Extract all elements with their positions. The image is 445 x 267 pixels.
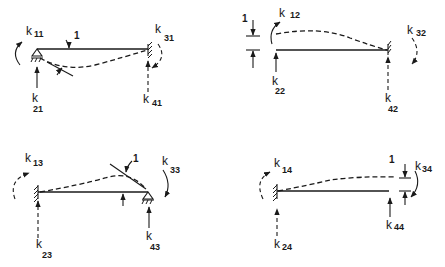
- moment-arrow-k33: [163, 170, 168, 197]
- label-k13-sub: 13: [33, 158, 43, 168]
- unit-label: 1: [242, 13, 248, 24]
- label-k31-sub: 31: [164, 33, 174, 43]
- unit-pointer-arrow: [66, 40, 69, 48]
- unit-displacement-dimension: [399, 164, 411, 205]
- deflected-shape: [40, 50, 147, 67]
- label-k43-sub: 43: [150, 242, 160, 252]
- unit-label: 1: [133, 153, 139, 164]
- label-k14-sub: 14: [282, 165, 292, 175]
- label-k34-base: k: [386, 218, 393, 232]
- label-k24-sub: 24: [282, 242, 292, 252]
- tangent-line: [110, 164, 146, 189]
- label-k41-sub: 41: [152, 98, 162, 108]
- label-k33-sub: 33: [170, 165, 180, 175]
- panel-case-1: 1 k 11 k 21 k 31 k 41: [15, 22, 174, 114]
- unit-label: 1: [389, 154, 395, 165]
- label-k12-sub: 12: [290, 10, 300, 20]
- label-k13-base: k: [25, 151, 32, 165]
- fixed-support: [388, 41, 391, 55]
- moment-arrow-k32: [412, 38, 417, 64]
- unit-label: 1: [74, 30, 80, 41]
- label-k23-base: k: [36, 237, 43, 251]
- label-k11-sub: 11: [34, 29, 44, 39]
- label-k11-base: k: [26, 24, 33, 38]
- fixed-support: [148, 42, 152, 58]
- label-k43-base: k: [146, 229, 153, 243]
- label-k33-base: k: [162, 154, 169, 168]
- unit-rotation-arrow: [126, 161, 132, 172]
- moment-arrow-k11: [15, 42, 22, 65]
- label-k21-base: k: [32, 91, 39, 105]
- label-k14-base: k: [274, 156, 281, 170]
- moment-arrow-k14: [260, 172, 270, 199]
- tangent-line: [47, 62, 73, 76]
- label-k44-base: k: [415, 159, 422, 173]
- fixed-support: [273, 184, 277, 201]
- deflected-shape: [278, 177, 395, 191]
- moment-arrow-k13: [13, 173, 29, 199]
- label-k24-base: k: [274, 237, 281, 251]
- label-k34-sub: 44: [394, 222, 404, 232]
- stiffness-diagram: 1 k 11 k 21 k 31 k 41: [0, 0, 445, 267]
- label-k44-sub: 34: [422, 164, 432, 174]
- label-k41-base: k: [143, 92, 150, 106]
- moment-arrow-k44: [411, 171, 418, 197]
- moment-arrow-k31: [152, 44, 162, 68]
- fixed-support: [34, 185, 38, 202]
- pin-support: [142, 192, 154, 204]
- label-k42-base: k: [385, 91, 392, 105]
- label-k31-base: k: [155, 22, 162, 36]
- deflected-shape: [276, 31, 387, 50]
- panel-case-3: 1 k 13 k 23 k 33 k 43: [13, 151, 180, 260]
- unit-displacement-dimension: [246, 20, 260, 68]
- label-k23-sub: 23: [42, 250, 52, 260]
- pin-support: [31, 49, 43, 62]
- label-k42-sub: 42: [388, 104, 398, 114]
- label-k22-sub: 22: [275, 86, 285, 96]
- panel-case-4: 1 k 14 k 24 k 34 k 44: [260, 154, 432, 252]
- label-k32-base: k: [407, 23, 414, 37]
- label-k32-sub: 32: [416, 28, 426, 38]
- panel-case-2: 1 k 12 k 22 k 32 k 42: [242, 6, 426, 114]
- label-k12-base: k: [279, 6, 286, 20]
- label-k21-sub: 21: [33, 104, 43, 114]
